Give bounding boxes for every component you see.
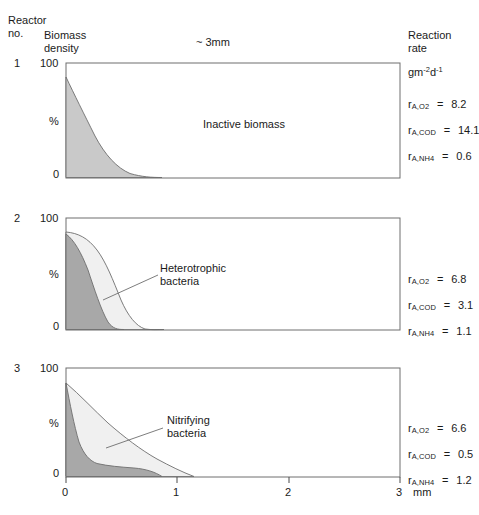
panel-3-rate-cod-value: 0.5 xyxy=(458,448,473,460)
x-axis-label-1: 1 xyxy=(173,486,179,498)
panel-3-rate-cod-subscript: A,COD xyxy=(412,452,436,461)
panel-3-curve-label-line2: bacteria xyxy=(167,427,206,440)
x-axis-label-2: 2 xyxy=(285,486,291,498)
panel-3-rate-o2-equals: = xyxy=(429,422,451,434)
panel-3-rate-nh4-equals: = xyxy=(434,474,456,486)
x-axis-label-0: 0 xyxy=(62,486,68,498)
panel-3-rate-nh4-value: 1.2 xyxy=(456,474,471,486)
panel-3-rate-o2-value: 6.6 xyxy=(451,422,466,434)
panel-3-rate-o2-subscript: A,O2 xyxy=(412,426,430,435)
panel-3-rate-cod: rA,COD=0.5 xyxy=(408,448,473,461)
panel-3-rate-o2: rA,O2=6.6 xyxy=(408,422,466,435)
x-axis-unit-label: mm xyxy=(413,486,431,498)
panel-3-rate-cod-equals: = xyxy=(436,448,458,460)
x-axis-label-3: 3 xyxy=(396,486,402,498)
panel-3-curve-label-line1: Nitrifying xyxy=(167,414,210,427)
